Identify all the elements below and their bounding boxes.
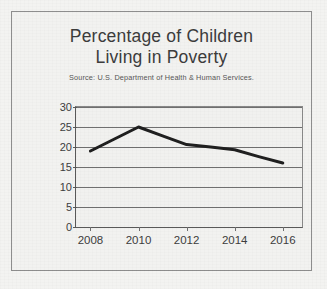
x-axis-tick-label: 2012 bbox=[174, 234, 200, 246]
x-axis-tick-label: 2010 bbox=[126, 234, 152, 246]
slide-frame: Percentage of Children Living in Poverty… bbox=[11, 11, 312, 271]
y-axis-tick-mark bbox=[73, 227, 77, 228]
plot-area: 051015202530 20082010201220142016 bbox=[75, 106, 303, 228]
x-axis-tick-mark bbox=[187, 227, 188, 231]
y-axis-tick-label: 30 bbox=[60, 101, 72, 113]
line-series bbox=[76, 107, 302, 227]
x-axis-tick-mark bbox=[235, 227, 236, 231]
screenshot-canvas: Percentage of Children Living in Poverty… bbox=[0, 0, 327, 289]
y-axis-tick-label: 25 bbox=[60, 121, 72, 133]
x-axis-tick-label: 2014 bbox=[222, 234, 248, 246]
chart: 051015202530 20082010201220142016 bbox=[64, 106, 304, 256]
y-axis-tick-label: 10 bbox=[60, 181, 72, 193]
chart-title-line-2: Living in Poverty bbox=[12, 47, 311, 68]
y-axis-tick-label: 15 bbox=[60, 161, 72, 173]
chart-title-line-1: Percentage of Children bbox=[12, 26, 311, 47]
chart-title-block: Percentage of Children Living in Poverty… bbox=[12, 26, 311, 82]
x-axis-tick-label: 2016 bbox=[270, 234, 296, 246]
x-axis-tick-mark bbox=[90, 227, 91, 231]
x-axis-tick-mark bbox=[139, 227, 140, 231]
y-axis-tick-label: 0 bbox=[66, 221, 72, 233]
y-axis-tick-label: 20 bbox=[60, 141, 72, 153]
x-axis-tick-mark bbox=[283, 227, 284, 231]
y-axis-tick-label: 5 bbox=[66, 201, 72, 213]
chart-source-note: Source: U.S. Department of Health & Huma… bbox=[12, 73, 311, 82]
series-line bbox=[90, 127, 282, 163]
x-axis-tick-label: 2008 bbox=[78, 234, 104, 246]
